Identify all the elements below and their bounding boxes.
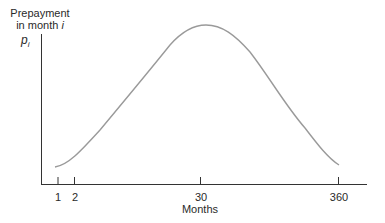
x-tick-label-30: 30 bbox=[195, 191, 207, 203]
prepayment-curve bbox=[55, 25, 339, 167]
chart-canvas bbox=[0, 0, 385, 223]
x-axis-label: Months bbox=[182, 203, 218, 215]
y-symbol-sub: i bbox=[28, 40, 30, 49]
y-axis-label-prefix: in month bbox=[16, 19, 61, 31]
y-axis-label-var: i bbox=[61, 19, 63, 31]
y-axis-label-line1: Prepayment bbox=[5, 7, 75, 19]
x-tick-label-1: 1 bbox=[55, 191, 61, 203]
y-axis-label: Prepayment in month i bbox=[5, 7, 75, 31]
y-axis-label-line2: in month i bbox=[5, 19, 75, 31]
x-tick-label-2: 2 bbox=[72, 191, 78, 203]
y-symbol-p: p bbox=[21, 33, 28, 47]
y-axis-symbol: pi bbox=[21, 34, 29, 51]
x-tick-label-360: 360 bbox=[330, 191, 348, 203]
